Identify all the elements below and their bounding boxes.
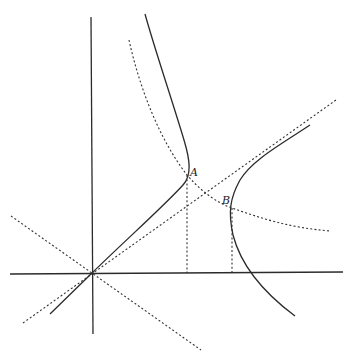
diagram-canvas: A B (0, 0, 349, 357)
y-axis (91, 17, 93, 334)
solid-curve-left-branch (50, 14, 189, 314)
x-axis (10, 272, 343, 274)
dotted-line-descending (11, 216, 201, 350)
point-a-label: A (189, 166, 198, 179)
dotted-asymptote (23, 100, 336, 323)
point-b-label: B (221, 194, 230, 207)
